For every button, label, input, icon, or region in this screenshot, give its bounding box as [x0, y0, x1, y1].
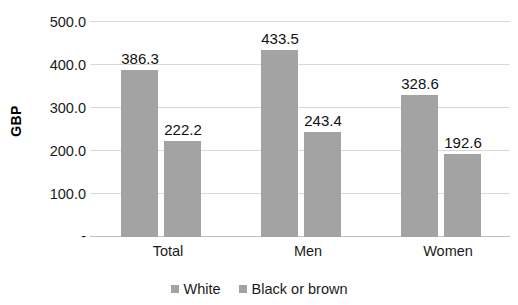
bar-chart: GBP 500.0 400.0 300.0 200.0 100.0 - 386.… [0, 0, 518, 305]
plot-area: 386.3 222.2 433.5 243.4 328.6 192.6 [90, 21, 510, 237]
bar-label-men-white: 433.5 [244, 31, 316, 46]
legend-label-black-or-brown: Black or brown [252, 281, 348, 297]
bar-label-women-white: 328.6 [384, 76, 456, 91]
bar-total-white[interactable] [121, 70, 158, 237]
x-label-men: Men [248, 243, 368, 259]
chart-legend: White Black or brown [0, 281, 518, 297]
y-tick-300: 300.0 [32, 101, 86, 116]
bar-women-white[interactable] [401, 95, 438, 237]
x-label-total: Total [108, 243, 228, 259]
y-tick-400: 400.0 [32, 58, 86, 73]
bar-label-women-black-or-brown: 192.6 [427, 135, 499, 150]
x-label-women: Women [388, 243, 508, 259]
bar-group-total: 386.3 222.2 [108, 21, 228, 237]
y-tick-200: 200.0 [32, 144, 86, 159]
y-axis-title: GBP [8, 91, 24, 151]
bar-label-total-black-or-brown: 222.2 [147, 122, 219, 137]
legend-item-white[interactable]: White [171, 281, 221, 297]
y-tick-100: 100.0 [32, 187, 86, 202]
bar-group-women: 328.6 192.6 [388, 21, 508, 237]
legend-item-black-or-brown[interactable]: Black or brown [239, 281, 348, 297]
legend-label-white: White [184, 281, 221, 297]
bar-women-black-or-brown[interactable] [444, 154, 481, 237]
bar-group-men: 433.5 243.4 [248, 21, 368, 237]
x-axis-category-labels: Total Men Women [90, 243, 510, 265]
bar-men-white[interactable] [261, 50, 298, 237]
y-axis-tick-labels: 500.0 400.0 300.0 200.0 100.0 - [24, 0, 86, 305]
bar-label-total-white: 386.3 [104, 51, 176, 66]
bar-label-men-black-or-brown: 243.4 [287, 113, 359, 128]
legend-swatch-icon [171, 285, 179, 293]
y-tick-0: - [32, 229, 86, 244]
bar-total-black-or-brown[interactable] [164, 141, 201, 237]
legend-swatch-icon [239, 285, 247, 293]
y-tick-500: 500.0 [32, 15, 86, 30]
bar-men-black-or-brown[interactable] [304, 132, 341, 237]
